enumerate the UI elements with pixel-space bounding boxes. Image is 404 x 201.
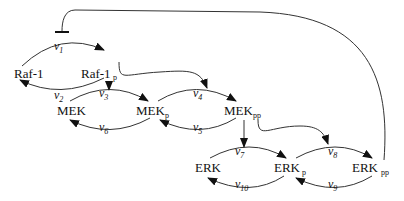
node-erkp: ERK xyxy=(274,160,301,175)
node-raf1: Raf-1 xyxy=(14,66,44,81)
rate-v8: v8 xyxy=(328,144,337,160)
edge-erkpp-inhibits-v1 xyxy=(62,10,385,160)
mapk-cascade-diagram: Raf-1 Raf-1 p v1 v2 MEK MEK p MEK pp v3 … xyxy=(0,0,404,201)
node-erk: ERK xyxy=(195,160,222,175)
node-raf1p: Raf-1 xyxy=(81,66,111,81)
node-erkp-sub: p xyxy=(302,168,306,177)
node-mek: MEK xyxy=(57,103,87,118)
node-mekpp: MEK xyxy=(224,103,254,118)
rate-v9: v9 xyxy=(328,177,337,193)
node-mekp-sub: p xyxy=(165,111,169,120)
edge-v6 xyxy=(70,118,150,130)
rate-v4: v4 xyxy=(193,86,202,102)
rate-v1: v1 xyxy=(54,39,63,55)
rate-v2: v2 xyxy=(54,88,63,104)
node-mekp: MEK xyxy=(136,103,166,118)
erk-cycle: ERK ERK p ERK pp v7 v10 v8 v9 xyxy=(195,144,389,193)
rate-v5: v5 xyxy=(193,120,202,136)
node-erkpp-sub: pp xyxy=(381,168,389,177)
node-mekpp-sub: pp xyxy=(253,111,261,120)
node-raf1p-sub: p xyxy=(113,73,117,82)
node-erkpp: ERK xyxy=(352,160,379,175)
edge-v3 xyxy=(70,90,148,102)
edge-raf1p-to-v4 xyxy=(119,62,207,88)
inhibition-edges xyxy=(55,10,385,160)
rate-v3: v3 xyxy=(99,86,108,102)
mek-cycle: MEK MEK p MEK pp v3 v6 v4 v5 xyxy=(57,86,261,136)
edge-mekpp-to-v8 xyxy=(258,120,328,144)
rate-v10: v10 xyxy=(235,177,248,193)
edge-v7 xyxy=(210,147,286,158)
rate-v6: v6 xyxy=(99,120,108,136)
